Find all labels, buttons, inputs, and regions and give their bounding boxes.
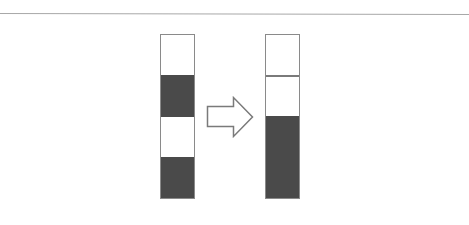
after-column — [265, 34, 300, 199]
after-segment-2-empty — [266, 75, 299, 116]
after-segment-3-filled — [266, 116, 299, 198]
after-segment-1-empty — [266, 35, 299, 75]
right-arrow-icon — [0, 0, 469, 225]
